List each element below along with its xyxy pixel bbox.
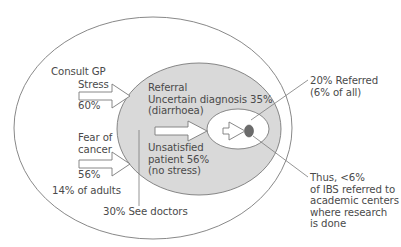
stress-label: Stress — [78, 79, 109, 91]
diarrhoea-label: (diarrhoea) — [148, 105, 272, 117]
fear-of-cancer-label: Fear of cancer — [78, 132, 112, 155]
core-block: Thus, <6% of IBS referred to academic ce… — [310, 172, 399, 230]
consult-gp-label: Consult GP — [51, 66, 106, 78]
referral-label: Referral — [148, 82, 272, 94]
core-line-5: is done — [310, 218, 399, 230]
patient-percent-label: patient 56% — [148, 154, 209, 166]
no-stress-label: (no stress) — [148, 165, 209, 177]
referral-block: Referral Uncertain diagnosis 35% (diarrh… — [148, 82, 272, 117]
unsatisfied-block: Unsatisfied patient 56% (no stress) — [148, 142, 209, 177]
stress-value: 60% — [78, 100, 100, 112]
see-doctors-label: 30% See doctors — [103, 206, 188, 218]
fear-line-2: cancer — [78, 144, 112, 156]
adults-label: 14% of adults — [52, 185, 121, 197]
unsatisfied-label: Unsatisfied — [148, 142, 209, 154]
of-all-label: (6% of all) — [310, 87, 378, 99]
fear-line-1: Fear of — [78, 132, 112, 144]
core-line-1: Thus, <6% — [310, 172, 399, 184]
core-line-2: of IBS referred to — [310, 184, 399, 196]
ibs-referral-diagram: Consult GP Stress 60% Fear of cancer 56%… — [0, 0, 401, 247]
uncertain-diagnosis-label: Uncertain diagnosis 35% — [148, 94, 272, 106]
fear-value: 56% — [78, 169, 100, 181]
core-line-3: academic centers — [310, 195, 399, 207]
referred-block: 20% Referred (6% of all) — [310, 75, 378, 98]
core-line-4: where research — [310, 207, 399, 219]
referred-label: 20% Referred — [310, 75, 378, 87]
